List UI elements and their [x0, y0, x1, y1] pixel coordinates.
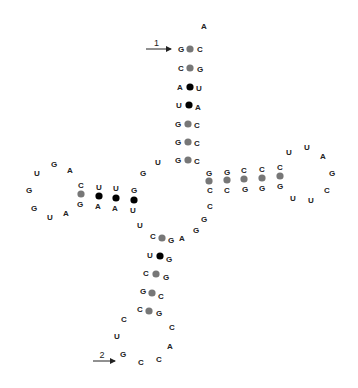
nucleotide-u: U: [113, 184, 119, 193]
nucleotide-c: C: [241, 166, 247, 175]
nucleotide-g: G: [51, 160, 57, 169]
nucleotide-a: A: [179, 234, 185, 243]
nucleotide-c: C: [194, 157, 200, 166]
nucleotide-u: U: [34, 169, 40, 178]
nucleotide-g: G: [31, 204, 37, 213]
nucleotide-g: G: [77, 200, 83, 209]
nucleotide-c: C: [324, 186, 330, 195]
nucleotide-c: C: [121, 315, 127, 324]
base-pair-dot-gc: [240, 175, 247, 182]
nucleotide-c: C: [169, 323, 175, 332]
nucleotide-g: G: [178, 45, 184, 54]
nucleotide-g: G: [193, 226, 199, 235]
base-pair-dot-gc: [186, 64, 193, 71]
nucleotide-c: C: [277, 163, 283, 172]
nucleotide-u: U: [137, 221, 143, 230]
base-pair-dot-gc: [258, 174, 265, 181]
nucleotide-c: C: [207, 186, 213, 195]
nucleotide-c: C: [224, 186, 230, 195]
nucleotide-c: C: [137, 305, 143, 314]
nucleotide-g: G: [329, 169, 335, 178]
base-pair-dot-au: [185, 101, 192, 108]
nucleotide-u: U: [147, 251, 153, 260]
nucleotides: AGCCGAUUAGCGCGCUGGUUAUACGAGUGGUAUCGUGCGG…: [26, 22, 335, 367]
nucleotide-u: U: [286, 148, 292, 157]
base-pair-dot-gc: [223, 176, 230, 183]
base-pair-dot-gc: [184, 156, 191, 163]
base-pair-dot-gc: [152, 270, 159, 277]
nucleotide-g: G: [175, 156, 181, 165]
base-pair-dot-gc: [276, 172, 283, 179]
strand-label-1: 1: [146, 38, 171, 49]
nucleotide-a: A: [195, 103, 201, 112]
nucleotide-a: A: [167, 342, 173, 351]
base-pair-dot-gc: [205, 177, 212, 184]
base-pair-dot-gu: [156, 252, 163, 259]
nucleotide-c: C: [143, 269, 149, 278]
nucleotide-a: A: [67, 166, 73, 175]
nucleotide-a: A: [201, 22, 207, 31]
rna-structure-diagram: 12 AGCCGAUUAGCGCGCUGGUUAUACGAGUGGUAUCGUG…: [0, 0, 358, 388]
nucleotide-u: U: [304, 143, 310, 152]
nucleotide-c: C: [259, 165, 265, 174]
strand-label-2: 2: [93, 350, 115, 361]
nucleotide-g: G: [131, 186, 137, 195]
strand-number: 2: [99, 350, 104, 360]
base-pair-dot-gc: [145, 307, 152, 314]
nucleotide-u: U: [47, 213, 53, 222]
nucleotide-g: G: [120, 350, 126, 359]
nucleotide-c: C: [150, 232, 156, 241]
nucleotide-c: C: [138, 358, 144, 367]
nucleotide-g: G: [175, 138, 181, 147]
base-pair-dot-gc: [184, 120, 191, 127]
nucleotide-g: G: [168, 236, 174, 245]
nucleotide-g: G: [175, 120, 181, 129]
nucleotide-g: G: [259, 184, 265, 193]
nucleotide-a: A: [177, 83, 183, 92]
nucleotide-g: G: [163, 273, 169, 282]
base-pair-dot-au: [112, 194, 119, 201]
nucleotide-g: G: [140, 287, 146, 296]
nucleotide-c: C: [158, 292, 164, 301]
nucleotide-u: U: [176, 101, 182, 110]
strand-number: 1: [154, 38, 159, 48]
nucleotide-u: U: [308, 196, 314, 205]
nucleotide-a: A: [112, 204, 118, 213]
nucleotide-c: C: [207, 202, 213, 211]
nucleotide-g: G: [156, 309, 162, 318]
nucleotide-g: G: [277, 182, 283, 191]
nucleotide-a: A: [95, 202, 101, 211]
base-pair-dot-gc: [77, 190, 84, 197]
nucleotide-c: C: [78, 181, 84, 190]
nucleotide-c: C: [178, 64, 184, 73]
nucleotide-u: U: [130, 206, 136, 215]
nucleotide-u: U: [196, 84, 202, 93]
nucleotide-g: G: [197, 65, 203, 74]
nucleotide-c: C: [156, 355, 162, 364]
nucleotide-a: A: [320, 152, 326, 161]
nucleotide-g: G: [26, 186, 32, 195]
nucleotide-g: G: [201, 215, 207, 224]
base-pair-dot-gu: [130, 196, 137, 203]
nucleotide-u: U: [290, 194, 296, 203]
nucleotide-g: G: [206, 169, 212, 178]
base-pair-dot-gc: [184, 138, 191, 145]
base-pair-dot-au: [95, 192, 102, 199]
base-pair-dot-gc: [148, 289, 155, 296]
nucleotide-c: C: [194, 121, 200, 130]
nucleotide-c: C: [194, 139, 200, 148]
nucleotide-g: G: [140, 169, 146, 178]
base-pair-dot-gc: [158, 234, 165, 241]
nucleotide-g: G: [166, 255, 172, 264]
nucleotide-u: U: [155, 158, 161, 167]
nucleotide-g: G: [242, 185, 248, 194]
nucleotide-g: G: [224, 168, 230, 177]
nucleotide-u: U: [114, 332, 120, 341]
base-pair-dot-gc: [186, 45, 193, 52]
base-pair-dot-au: [186, 83, 193, 90]
nucleotide-u: U: [96, 183, 102, 192]
nucleotide-c: C: [197, 45, 203, 54]
nucleotide-a: A: [63, 209, 69, 218]
